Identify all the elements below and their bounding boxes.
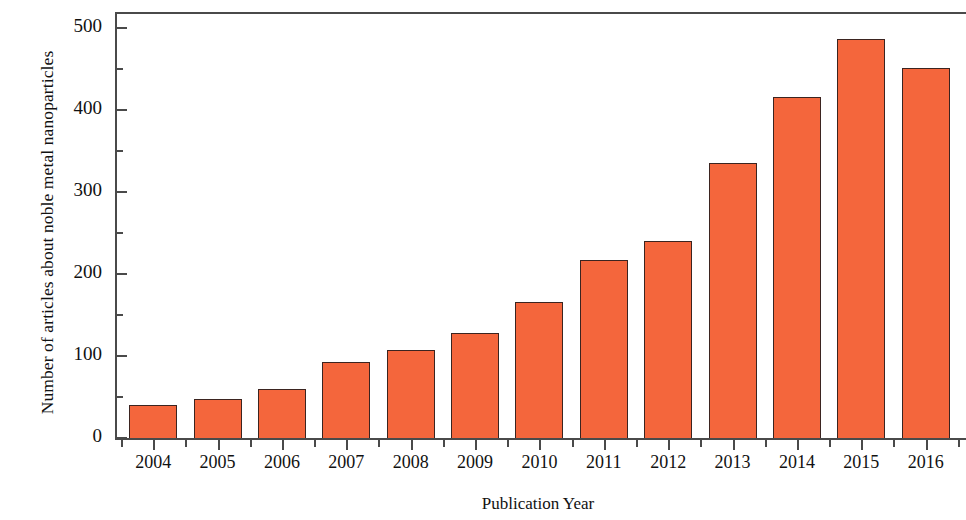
bar-2009 [451,333,499,438]
y-tick-minor [115,68,123,70]
x-tick-minor [314,440,316,447]
bar-2006 [258,389,306,438]
y-axis-title: Number of articles about noble metal nan… [37,18,58,448]
y-tick-minor [115,232,123,234]
x-tick-major [218,440,220,450]
y-tick-major [115,109,127,111]
x-tick-minor [572,440,574,447]
x-tick-major [604,440,606,450]
bar-2005 [194,399,242,438]
x-tick-minor [829,440,831,447]
y-tick-label: 400 [42,97,102,119]
bar-2010 [515,302,563,438]
x-tick-major [861,440,863,450]
y-tick-major [115,27,127,29]
y-tick-label: 500 [42,15,102,37]
y-tick-minor [115,396,123,398]
y-tick-minor [115,314,123,316]
x-tick-major [282,440,284,450]
y-tick-label: 200 [42,261,102,283]
x-tick-major [797,440,799,450]
x-tick-minor [378,440,380,447]
x-axis-title: Publication Year [110,494,966,514]
x-tick-minor [700,440,702,447]
x-tick-minor [507,440,509,447]
y-tick-minor [115,150,123,152]
bar-2012 [644,241,692,438]
x-tick-major [539,440,541,450]
x-tick-minor [958,440,960,447]
bar-2004 [129,405,177,438]
y-tick-label: 0 [42,425,102,447]
x-tick-major [926,440,928,450]
x-tick-minor [250,440,252,447]
x-tick-major [733,440,735,450]
x-tick-major [346,440,348,450]
bar-chart-figure: Number of articles about noble metal nan… [0,0,966,520]
x-tick-major [153,440,155,450]
x-tick-minor [893,440,895,447]
bar-2011 [580,260,628,438]
bar-2013 [709,163,757,438]
x-tick-minor [765,440,767,447]
x-tick-major [668,440,670,450]
x-tick-minor [185,440,187,447]
y-tick-major [115,355,127,357]
y-tick-major [115,191,127,193]
bar-2016 [902,68,950,438]
x-tick-minor [636,440,638,447]
y-tick-label: 100 [42,343,102,365]
x-tick-minor [443,440,445,447]
bar-2008 [387,350,435,438]
bar-2007 [322,362,370,438]
x-tick-major [411,440,413,450]
bar-2014 [773,97,821,438]
y-tick-label: 300 [42,179,102,201]
x-tick-label: 2016 [886,452,966,473]
x-tick-minor [121,440,123,447]
x-tick-major [475,440,477,450]
y-tick-major [115,437,127,439]
y-tick-major [115,273,127,275]
bar-2015 [837,39,885,438]
